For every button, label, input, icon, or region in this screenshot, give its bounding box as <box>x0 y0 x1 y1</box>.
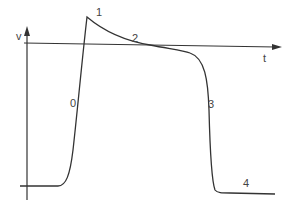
phase-label-1: 1 <box>96 6 102 18</box>
diagram-canvas: v t 0 1 2 3 4 <box>0 0 294 208</box>
action-potential-diagram: v t 0 1 2 3 4 <box>0 0 294 208</box>
y-axis-label: v <box>16 30 22 42</box>
x-axis-label: t <box>263 52 266 64</box>
y-axis-arrow-icon <box>24 26 30 36</box>
x-axis-arrow-icon <box>272 44 282 50</box>
phase-label-0: 0 <box>70 97 76 109</box>
phase-label-4: 4 <box>243 177 249 189</box>
phase-label-3: 3 <box>208 98 214 110</box>
phase-label-2: 2 <box>132 32 138 44</box>
